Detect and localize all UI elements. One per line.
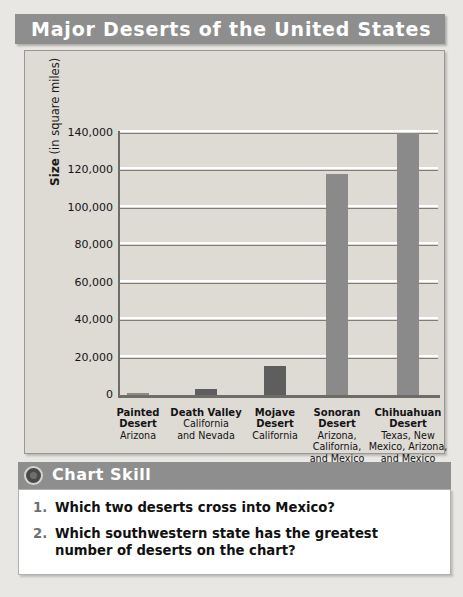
gridline bbox=[120, 245, 438, 246]
x-axis-line bbox=[118, 395, 440, 398]
category-name-line2: Desert bbox=[302, 418, 372, 429]
question-text: Which two deserts cross into Mexico? bbox=[55, 500, 438, 517]
chart-skill-banner: Chart Skill bbox=[18, 462, 451, 489]
circle-bullet-icon bbox=[24, 466, 43, 485]
category-name-line1: Death Valley bbox=[169, 407, 243, 418]
question-number: 2. bbox=[33, 526, 47, 543]
gridline-highlight bbox=[120, 317, 438, 319]
category-name-line1: Chihuahuan bbox=[368, 407, 448, 418]
y-axis-tick-label: 120,000 bbox=[68, 163, 114, 176]
x-axis-category-label: PaintedDesertArizona bbox=[105, 407, 171, 441]
title-banner: Major Deserts of the United States bbox=[15, 14, 445, 44]
y-axis-tick-label: 80,000 bbox=[75, 238, 114, 251]
bar bbox=[326, 174, 348, 395]
gridline bbox=[120, 208, 438, 209]
category-name-line2: Desert bbox=[242, 418, 308, 429]
y-axis-tick-label: 0 bbox=[106, 388, 113, 401]
y-axis-tick-label: 60,000 bbox=[75, 276, 114, 289]
question-item: 1. Which two deserts cross into Mexico? bbox=[33, 500, 438, 517]
bar bbox=[127, 393, 149, 395]
gridline bbox=[120, 358, 438, 359]
question-item: 2. Which southwestern state has the grea… bbox=[33, 526, 438, 559]
y-axis-tick-label: 140,000 bbox=[68, 126, 114, 139]
question-number: 1. bbox=[33, 500, 47, 517]
category-states: Texas, NewMexico, Arizona,and Mexico bbox=[368, 430, 448, 464]
y-axis-tick-labels: 020,00040,00060,00080,000100,000120,0001… bbox=[25, 51, 113, 455]
x-axis-category-label: Death ValleyCaliforniaand Nevada bbox=[169, 407, 243, 441]
questions-box: 1. Which two deserts cross into Mexico? … bbox=[18, 489, 451, 575]
x-axis-category-label: SonoranDesertArizona,California,and Mexi… bbox=[302, 407, 372, 464]
gridline-highlight bbox=[120, 355, 438, 357]
category-name-line2: Desert bbox=[105, 418, 171, 429]
plot-area bbox=[120, 133, 438, 395]
category-states: California bbox=[242, 430, 308, 441]
y-axis-tick-label: 20,000 bbox=[75, 351, 114, 364]
category-name-line1: Mojave bbox=[242, 407, 308, 418]
gridline-highlight bbox=[120, 167, 438, 169]
gridline bbox=[120, 133, 438, 134]
bar bbox=[195, 389, 217, 395]
y-axis-tick-label: 100,000 bbox=[68, 201, 114, 214]
category-states: Arizona,California,and Mexico bbox=[302, 430, 372, 464]
category-states: Arizona bbox=[105, 430, 171, 441]
gridline bbox=[120, 283, 438, 284]
chart-skill-label: Chart Skill bbox=[52, 465, 151, 484]
category-states: and Nevada bbox=[169, 430, 243, 441]
x-axis-category-label: ChihuahuanDesertTexas, NewMexico, Arizon… bbox=[368, 407, 448, 464]
gridline-highlight bbox=[120, 242, 438, 244]
y-axis-tick-label: 40,000 bbox=[75, 313, 114, 326]
chart-panel: Size (in square miles) 020,00040,00060,0… bbox=[24, 50, 445, 454]
x-axis-category-label: MojaveDesertCalifornia bbox=[242, 407, 308, 441]
category-name-line1: Painted bbox=[105, 407, 171, 418]
bar bbox=[397, 133, 419, 395]
circle-bullet-icon-inner bbox=[30, 472, 37, 479]
gridline bbox=[120, 170, 438, 171]
gridline bbox=[120, 320, 438, 321]
gridline-highlight bbox=[120, 280, 438, 282]
bar bbox=[264, 366, 286, 395]
gridline-highlight bbox=[120, 205, 438, 207]
page-title: Major Deserts of the United States bbox=[31, 18, 431, 40]
question-text: Which southwestern state has the greates… bbox=[55, 526, 438, 559]
category-name-line2: California bbox=[169, 418, 243, 429]
category-name-line2: Desert bbox=[368, 418, 448, 429]
gridline-highlight bbox=[120, 130, 438, 132]
category-name-line1: Sonoran bbox=[302, 407, 372, 418]
